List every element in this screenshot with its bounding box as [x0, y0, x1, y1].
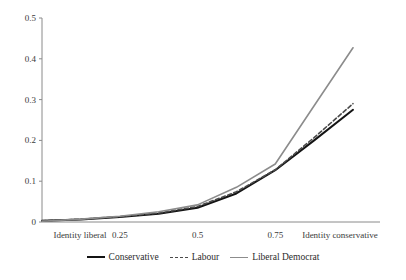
y-tick-label: 0.1 [8, 176, 36, 186]
legend-item-labour[interactable]: Labour [170, 252, 219, 262]
legend-line-swatch-icon [87, 256, 105, 258]
y-tick-label: 0.4 [8, 54, 36, 64]
legend-item-conservative[interactable]: Conservative [87, 252, 159, 262]
axis-lines [42, 18, 380, 222]
y-tick-label: 0.2 [8, 135, 36, 145]
legend-label: Labour [192, 252, 219, 262]
series-line-labour [42, 104, 353, 221]
legend-label: Conservative [109, 252, 159, 262]
x-tick-label: Identity conservative [302, 230, 378, 240]
chart-legend: ConservativeLabourLiberal Democrat [0, 252, 406, 262]
legend-label: Liberal Democrat [252, 252, 319, 262]
x-tick-label: 0.5 [192, 230, 203, 240]
legend-line-swatch-icon [170, 257, 188, 258]
legend-item-liberal-democrat[interactable]: Liberal Democrat [230, 252, 319, 262]
line-chart-figure: 0.50.40.30.20.10 Identity liberal0.250.5… [0, 0, 406, 280]
y-tick-label: 0.3 [8, 95, 36, 105]
legend-line-swatch-icon [230, 257, 248, 258]
x-tick-label: Identity liberal [53, 230, 106, 240]
y-tick-label: 0.5 [8, 13, 36, 23]
series-line-liberal-democrat [42, 48, 353, 221]
series-paths [42, 48, 353, 221]
x-tick-label: 0.25 [112, 230, 128, 240]
y-tick-label: 0 [8, 217, 36, 227]
x-tick-label: 0.75 [267, 230, 283, 240]
